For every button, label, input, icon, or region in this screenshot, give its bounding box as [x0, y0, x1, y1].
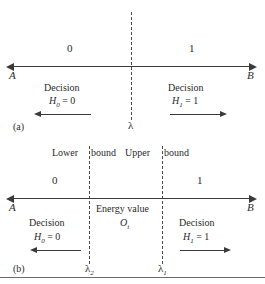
upper-bound-label-before: Upper — [125, 148, 150, 159]
decision-arrow-head-a-left — [34, 111, 41, 117]
decision-arrow-line-b-left — [36, 250, 81, 251]
hypothesis-subscript-a-left: 0 — [56, 101, 60, 109]
energy-variable-subscript: i — [127, 223, 129, 231]
decision-word-a-right: Decision — [168, 83, 204, 94]
hypothesis-value-a-left: = 0 — [62, 95, 75, 106]
axis-line-b — [12, 198, 253, 199]
decision-hypothesis-b-right: H1 = 1 — [183, 232, 209, 245]
decision-arrow-head-b-left — [30, 247, 37, 253]
panel-a: 0 1 A B Decision H0 = 0 Decision H1 = 1 … — [0, 0, 265, 142]
upper-bound-lambda-subscript: 1 — [163, 269, 167, 277]
energy-value-variable: Oi — [120, 218, 129, 231]
panel-tag-a: (a) — [13, 122, 24, 133]
hypothesis-subscript-b-right: 1 — [190, 237, 194, 245]
hypothesis-value-a-right: = 1 — [185, 95, 198, 106]
figure-container: 0 1 A B Decision H0 = 0 Decision H1 = 1 … — [0, 0, 265, 284]
threshold-symbol-a: λ — [128, 120, 133, 132]
lower-bound-symbol: λ2 — [85, 263, 94, 278]
hypothesis-subscript-b-left: 0 — [41, 237, 45, 245]
axis-endpoint-b-right: B — [247, 202, 254, 214]
lower-bound-dashed-line — [89, 146, 90, 264]
upper-bound-dashed-line — [162, 146, 163, 264]
decision-hypothesis-a-right: H1 = 1 — [172, 96, 198, 109]
decision-arrow-head-a-right — [220, 111, 227, 117]
lower-bound-label-after: bound — [91, 148, 116, 159]
axis-endpoint-a-right: B — [247, 70, 254, 82]
panel-b: Lower bound Upper bound 0 1 A B Energy v… — [0, 142, 265, 284]
decision-word-a-left: Decision — [44, 83, 80, 94]
decision-word-b-left: Decision — [29, 218, 65, 229]
energy-value-caption: Energy value — [96, 204, 149, 215]
axis-endpoint-b-left: A — [9, 202, 16, 214]
hypothesis-subscript-a-right: 1 — [179, 101, 183, 109]
region-label-zero-b: 0 — [52, 175, 58, 187]
decision-hypothesis-b-left: H0 = 0 — [34, 232, 60, 245]
decision-arrow-line-a-left — [40, 114, 91, 115]
hypothesis-value-b-right: = 1 — [196, 231, 209, 242]
upper-bound-symbol: λ1 — [158, 263, 167, 278]
panel-tag-b: (b) — [13, 264, 25, 275]
axis-endpoint-a-left: A — [9, 70, 16, 82]
hypothesis-value-b-left: = 0 — [47, 231, 60, 242]
lower-bound-label-before: Lower — [52, 148, 78, 159]
decision-arrow-head-b-right — [224, 247, 231, 253]
upper-bound-label-after: bound — [164, 148, 189, 159]
decision-arrow-line-a-right — [170, 114, 221, 115]
decision-word-b-right: Decision — [179, 218, 215, 229]
decision-arrow-line-b-right — [180, 250, 225, 251]
bottom-divider — [0, 277, 265, 278]
region-label-one-a: 1 — [189, 43, 195, 55]
region-label-one-b: 1 — [197, 175, 203, 187]
lower-bound-lambda-subscript: 2 — [90, 269, 94, 277]
decision-hypothesis-a-left: H0 = 0 — [49, 96, 75, 109]
region-label-zero-a: 0 — [67, 43, 73, 55]
axis-line-a — [12, 66, 253, 67]
